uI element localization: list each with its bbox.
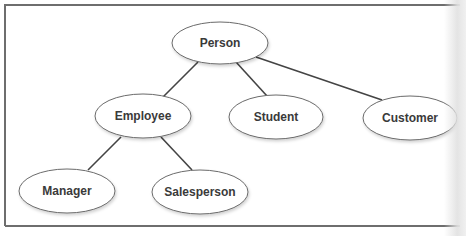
- node-customer: Customer: [363, 96, 457, 140]
- node-person: Person: [172, 22, 268, 64]
- edge-person-to-employee: [163, 62, 198, 97]
- edge-person-to-customer: [256, 57, 382, 100]
- inheritance-diagram: PersonEmployeeStudentCustomerManagerSale…: [0, 0, 466, 236]
- node-student: Student: [229, 95, 323, 139]
- edge-employee-to-salesperson: [161, 137, 192, 170]
- node-label: Student: [254, 110, 299, 124]
- node-label: Salesperson: [164, 185, 235, 199]
- node-label: Manager: [42, 184, 92, 198]
- node-label: Customer: [382, 111, 438, 125]
- node-label: Employee: [115, 109, 172, 123]
- node-employee: Employee: [95, 94, 191, 138]
- nodes-group: PersonEmployeeStudentCustomerManagerSale…: [19, 22, 457, 214]
- node-label: Person: [200, 36, 241, 50]
- page-edge-shadow: [444, 0, 466, 236]
- node-salesperson: Salesperson: [152, 170, 248, 214]
- edge-employee-to-manager: [88, 137, 121, 170]
- diagram-canvas: PersonEmployeeStudentCustomerManagerSale…: [0, 0, 466, 236]
- node-manager: Manager: [19, 169, 115, 213]
- edge-person-to-student: [236, 62, 267, 96]
